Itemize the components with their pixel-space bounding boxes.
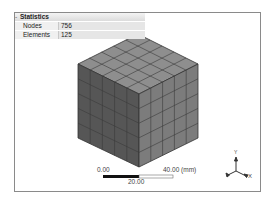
collapse-icon[interactable]: - [15,13,19,21]
stat-label: Nodes [15,22,59,30]
scale-mid-label: 20.00 [128,178,144,185]
stat-label: Elements [15,31,59,39]
stat-value: 125 [59,31,145,39]
statistics-header[interactable]: -Statistics [15,13,145,21]
stat-row-nodes: Nodes 756 [15,21,145,30]
stat-row-elements: Elements 125 [15,30,145,39]
scale-max-label: 40.00 (mm) [163,166,196,173]
statistics-panel: -Statistics Nodes 756 Elements 125 [15,13,145,39]
triad-y-label: Y [234,149,237,155]
stat-value: 756 [59,22,145,30]
scale-min-label: 0.00 [97,166,110,173]
axis-triad [226,157,248,178]
triad-x-label: X [248,173,252,179]
